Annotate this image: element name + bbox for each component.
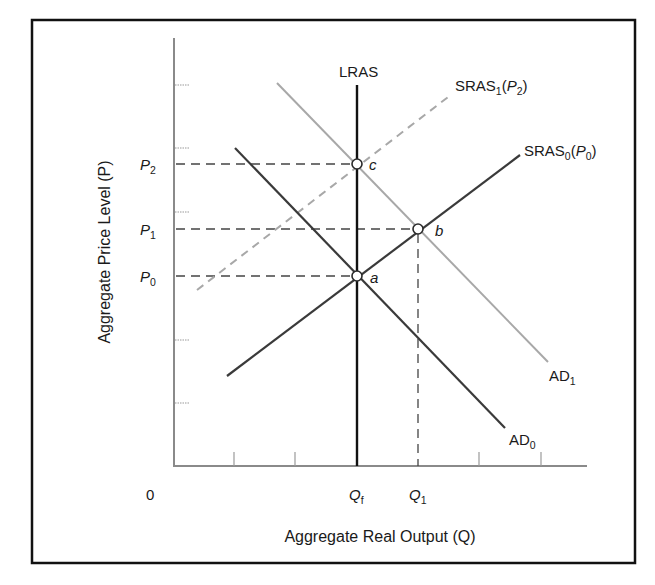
y-axis-title: Aggregate Price Level (P): [96, 160, 113, 343]
ad-as-diagram: c b a LRAS SRAS1(P2) SRAS0(P0) AD1 AD0 P…: [0, 0, 655, 585]
point-b-label: b: [435, 222, 443, 239]
point-c-label: c: [369, 156, 377, 173]
x-axis-title: Aggregate Real Output (Q): [284, 528, 475, 545]
point-a-label: a: [370, 269, 378, 286]
point-b-marker: [413, 224, 423, 234]
origin-label: 0: [146, 486, 154, 503]
point-c-marker: [352, 159, 362, 169]
figure-frame: [32, 20, 635, 563]
point-a-marker: [352, 271, 362, 281]
lras-label: LRAS: [339, 63, 378, 80]
